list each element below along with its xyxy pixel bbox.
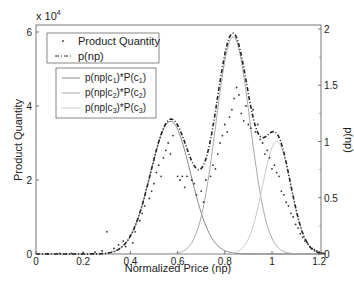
- x-tick-label: 1: [269, 256, 275, 267]
- legend-label-pnp: p(np): [78, 50, 104, 62]
- data-point: [144, 205, 146, 207]
- data-point: [259, 138, 261, 140]
- data-point: [184, 187, 186, 189]
- data-point: [203, 201, 205, 203]
- data-point: [172, 135, 174, 137]
- data-point: [264, 153, 266, 155]
- data-point: [191, 179, 193, 181]
- data-point: [193, 183, 195, 185]
- data-point: [278, 175, 280, 177]
- data-point: [132, 242, 134, 244]
- data-point: [240, 113, 242, 115]
- data-point: [233, 98, 235, 100]
- data-point: [224, 124, 226, 126]
- data-point: [101, 250, 103, 252]
- y-tick-label-left: 0: [26, 249, 32, 260]
- data-point: [290, 212, 292, 214]
- data-point: [292, 216, 294, 218]
- data-point: [229, 116, 231, 118]
- data-point: [94, 251, 96, 253]
- data-point: [297, 227, 299, 229]
- data-point: [321, 252, 323, 254]
- data-point: [212, 164, 214, 166]
- data-point: [148, 198, 150, 200]
- data-point: [266, 150, 268, 152]
- data-point: [276, 172, 278, 174]
- y-tick-label-right: 2: [324, 24, 330, 35]
- data-point: [283, 194, 285, 196]
- data-point: [179, 179, 181, 181]
- chart: 00.20.40.60.811.2 0246 00.511.52 x 104 N…: [0, 0, 354, 292]
- data-point: [156, 172, 158, 174]
- data-point: [113, 248, 115, 250]
- x-axis-label: Normalized Price (np): [125, 262, 231, 274]
- data-point: [141, 212, 143, 214]
- legend-label-product-quantity: Product Quantity: [78, 35, 160, 47]
- data-point: [106, 231, 108, 233]
- data-point: [125, 246, 127, 248]
- data-point: [196, 194, 198, 196]
- data-point: [158, 164, 160, 166]
- data-point: [231, 109, 233, 111]
- x-tick-label: 0.2: [76, 256, 90, 267]
- y-multiplier-label: x 104: [36, 9, 61, 22]
- y-tick-label-right: 1: [324, 137, 330, 148]
- data-point: [163, 157, 165, 159]
- data-point: [274, 164, 276, 166]
- data-point: [170, 153, 172, 155]
- data-point: [118, 244, 120, 246]
- data-point: [281, 190, 283, 192]
- data-point: [285, 201, 287, 203]
- data-point: [134, 231, 136, 233]
- y-tick-label-right: 0.5: [324, 193, 338, 204]
- data-point: [226, 131, 228, 133]
- data-point: [295, 224, 297, 226]
- y-axis-label-left: Product Quantity: [12, 99, 24, 181]
- data-point: [200, 190, 202, 192]
- data-point: [288, 205, 290, 207]
- data-point: [122, 240, 124, 242]
- data-point: [252, 109, 254, 111]
- data-point: [215, 168, 217, 170]
- data-point: [151, 190, 153, 192]
- data-point: [217, 153, 219, 155]
- legend-main: Product Quantity p(np): [47, 33, 160, 63]
- data-point: [271, 168, 273, 170]
- data-point: [219, 142, 221, 144]
- data-point: [257, 124, 259, 126]
- data-point: [245, 105, 247, 107]
- y-axis-label-right: p(np): [343, 127, 354, 153]
- data-point: [186, 175, 188, 177]
- data-point: [165, 150, 167, 152]
- x-tick-label: 0: [33, 256, 39, 267]
- data-point: [160, 175, 162, 177]
- data-point: [153, 183, 155, 185]
- data-point: [255, 131, 257, 133]
- data-point: [243, 120, 245, 122]
- data-point: [236, 87, 238, 89]
- data-point: [167, 142, 169, 144]
- y-tick-label-left: 4: [26, 101, 32, 112]
- data-point: [238, 94, 240, 96]
- data-point: [177, 175, 179, 177]
- data-point: [269, 157, 271, 159]
- data-point: [205, 179, 207, 181]
- data-point: [248, 124, 250, 126]
- data-point: [299, 233, 301, 235]
- y-tick-label-left: 2: [26, 175, 32, 186]
- data-point: [139, 220, 141, 222]
- dot-marker-icon: [62, 40, 64, 42]
- y-tick-label-left: 6: [26, 27, 32, 38]
- legend-components: p(np|c1)*P(c1) p(np|c2)*P(c2) p(np|c3)*P…: [56, 68, 156, 118]
- y-tick-label-right: 0: [324, 249, 330, 260]
- data-point: [250, 127, 252, 129]
- data-point: [181, 175, 183, 177]
- data-point: [222, 135, 224, 137]
- y-tick-label-right: 1.5: [324, 80, 338, 91]
- data-point: [262, 142, 264, 144]
- data-point: [210, 175, 212, 177]
